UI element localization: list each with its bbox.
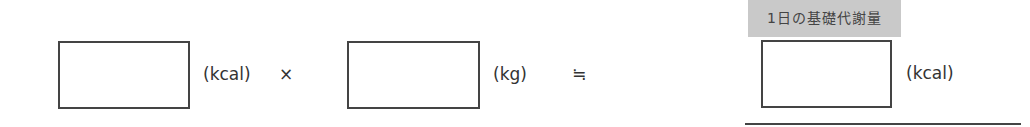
factor1-input-box[interactable] <box>58 41 190 109</box>
result-underline <box>745 123 1021 125</box>
factor1-unit: (kcal) <box>203 64 251 84</box>
approx-equal-sign: ≒ <box>572 64 586 84</box>
result-unit: (kcal) <box>906 63 954 83</box>
factor2-unit: (kg) <box>493 64 527 84</box>
multiply-sign: × <box>279 64 293 84</box>
result-input-box[interactable] <box>761 40 892 108</box>
factor2-input-box[interactable] <box>347 41 480 109</box>
result-label: 1日の基礎代謝量 <box>748 0 901 37</box>
